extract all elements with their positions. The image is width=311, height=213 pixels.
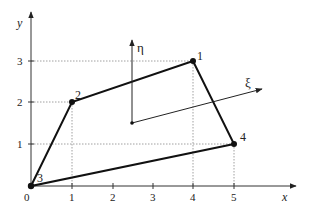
y-tick-2: 2 bbox=[17, 96, 23, 108]
node-3 bbox=[28, 183, 34, 189]
x-tick-2: 2 bbox=[110, 191, 116, 203]
x-axis-label: x bbox=[281, 190, 288, 204]
node-1-label: 1 bbox=[197, 49, 203, 63]
node-2-label: 2 bbox=[75, 88, 81, 102]
y-axis-label: y bbox=[16, 16, 23, 30]
xi-label: ξ bbox=[245, 75, 251, 90]
x-tick-1: 1 bbox=[69, 191, 75, 203]
node-4-label: 4 bbox=[240, 130, 246, 144]
node-1 bbox=[190, 58, 196, 64]
x-tick-5: 5 bbox=[231, 191, 237, 203]
eta-label: η bbox=[137, 40, 144, 55]
y-tick-3: 3 bbox=[17, 55, 23, 67]
node-3-label: 3 bbox=[37, 171, 43, 185]
x-tick-3: 3 bbox=[150, 191, 156, 203]
local-origin bbox=[130, 121, 134, 125]
xi-axis bbox=[132, 89, 262, 123]
node-4 bbox=[231, 141, 237, 147]
element-diagram: 0 1 2 3 4 5 1 2 3 x y η ξ 1 2 3 4 bbox=[0, 0, 311, 213]
x-tick-0: 0 bbox=[24, 191, 30, 203]
x-tick-4: 4 bbox=[190, 191, 196, 203]
y-tick-1: 1 bbox=[17, 138, 23, 150]
